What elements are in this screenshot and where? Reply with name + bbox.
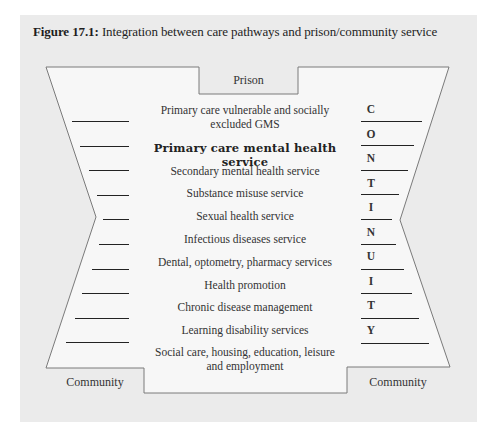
service-item: Health promotion xyxy=(134,278,356,292)
service-text: and employment xyxy=(134,359,356,373)
divider-line-right xyxy=(361,293,412,294)
divider-line-right xyxy=(361,121,422,122)
continuity-letter: U xyxy=(361,250,381,262)
divider-line-right xyxy=(361,244,396,245)
service-item: Social care, housing, education, leisure… xyxy=(134,345,356,373)
divider-line-right xyxy=(361,219,392,220)
divider-line-left xyxy=(103,219,129,220)
service-item: Sexual health service xyxy=(134,209,356,223)
divider-line-left xyxy=(80,146,129,147)
continuity-letter: O xyxy=(361,128,381,140)
continuity-letter: T xyxy=(361,299,381,311)
continuity-letter: I xyxy=(361,275,381,287)
divider-line-right xyxy=(361,343,429,344)
divider-line-left xyxy=(75,318,129,319)
divider-line-right xyxy=(361,269,404,270)
divider-line-left xyxy=(82,293,129,294)
service-text: Social care, housing, education, leisure xyxy=(134,345,356,359)
divider-line-left xyxy=(97,195,129,196)
continuity-letter: N xyxy=(361,152,381,164)
community-label-right: Community xyxy=(363,375,433,390)
divider-line-right xyxy=(361,170,408,171)
divider-line-right xyxy=(361,145,414,146)
continuity-letter: C xyxy=(361,103,381,115)
divider-line-left xyxy=(72,121,129,122)
continuity-letter: T xyxy=(361,177,381,189)
divider-line-left xyxy=(99,244,129,245)
divider-line-left xyxy=(89,170,129,171)
divider-line-left xyxy=(92,269,129,270)
continuity-letter: I xyxy=(361,201,381,213)
service-text: excluded GMS xyxy=(134,117,356,131)
continuity-letter: N xyxy=(361,226,381,238)
service-item: Dental, optometry, pharmacy services xyxy=(134,255,356,269)
community-label-left: Community xyxy=(60,375,130,390)
service-item: Learning disability services xyxy=(134,323,356,337)
service-item: Substance misuse service xyxy=(134,186,356,200)
service-text: Primary care vulnerable and socially xyxy=(134,103,356,117)
service-item: Infectious diseases service xyxy=(134,232,356,246)
divider-line-right xyxy=(361,194,399,195)
continuity-letter: Y xyxy=(361,324,381,336)
divider-line-right xyxy=(361,318,419,319)
service-item: Secondary mental health service xyxy=(134,164,356,178)
service-item: Chronic disease management xyxy=(134,300,356,314)
service-item: Primary care vulnerable and socially exc… xyxy=(134,103,356,131)
prison-label: Prison xyxy=(199,73,298,88)
divider-line-left xyxy=(66,342,129,343)
